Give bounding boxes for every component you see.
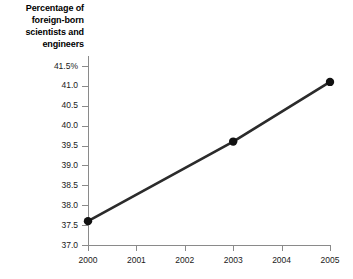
- x-axis-label: 2003: [210, 256, 256, 265]
- x-axis-label: 2004: [259, 256, 305, 265]
- y-axis-label: 41.5%: [18, 62, 78, 71]
- x-axis-tick: [185, 246, 186, 251]
- x-axis-tick: [330, 246, 331, 251]
- chart-figure: Percentage of foreign-born scientists an…: [0, 0, 353, 279]
- y-axis-tick: [82, 126, 88, 127]
- y-axis-label: 39.5: [18, 141, 78, 150]
- y-axis-label: 37.5: [18, 221, 78, 230]
- y-axis-label: 37.0: [18, 241, 78, 250]
- y-axis-label: 41.0: [18, 81, 78, 90]
- y-axis-label: 39.0: [18, 161, 78, 170]
- chart-title: Percentage of foreign-born scientists an…: [4, 2, 84, 50]
- y-axis-tick: [82, 106, 88, 107]
- x-axis-tick: [136, 246, 137, 251]
- data-point-marker: [229, 137, 237, 145]
- y-axis-tick: [82, 185, 88, 186]
- x-axis-line: [88, 245, 331, 246]
- y-axis-label: 40.0: [18, 121, 78, 130]
- x-axis-tick: [282, 246, 283, 251]
- y-axis-tick: [82, 86, 88, 87]
- y-axis-label: 40.5: [18, 101, 78, 110]
- data-line: [88, 82, 330, 221]
- y-axis-label: 38.5: [18, 181, 78, 190]
- x-axis-tick: [233, 246, 234, 251]
- y-axis-tick: [82, 146, 88, 147]
- y-axis-label: 38.0: [18, 201, 78, 210]
- data-point-marker: [326, 78, 334, 86]
- x-axis-label: 2001: [113, 256, 159, 265]
- y-axis-tick: [82, 225, 88, 226]
- x-axis-tick: [88, 246, 89, 251]
- y-axis-line: [88, 56, 89, 246]
- y-axis-tick: [82, 66, 88, 67]
- x-axis-label: 2005: [307, 256, 353, 265]
- y-axis-tick: [82, 205, 88, 206]
- x-axis-label: 2002: [162, 256, 208, 265]
- y-axis-tick: [82, 165, 88, 166]
- x-axis-label: 2000: [65, 256, 111, 265]
- data-markers: [84, 78, 334, 226]
